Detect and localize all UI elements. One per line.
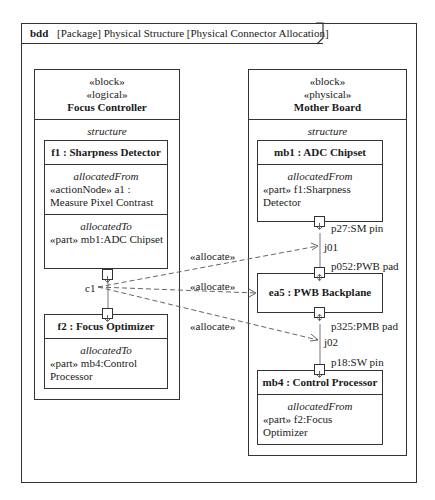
arrow-down-icon [103, 275, 112, 284]
connector-j01-label: j01 [324, 241, 338, 253]
arrow-bidirectional-icon [315, 273, 324, 282]
port-label-p325: p325:PMB pad [331, 320, 398, 332]
allocate-label-1: «allocate» [190, 250, 235, 262]
connector-j02-label: j02 [324, 336, 338, 348]
port-label-p27: p27:SM pin [331, 222, 383, 234]
port-label-p18: p18:SW pin [331, 356, 384, 368]
port-f1-out[interactable] [102, 269, 113, 280]
port-p052-pwb-pad[interactable] [314, 267, 325, 278]
connector-c1-label: c1 [85, 282, 95, 294]
port-p18-sw-pin[interactable] [314, 364, 325, 375]
port-p325-pmb-pad[interactable] [314, 307, 325, 318]
port-label-p052: p052:PWB pad [331, 260, 399, 272]
arrow-down-icon [103, 314, 112, 323]
allocate-label-2: «allocate» [190, 280, 235, 292]
port-f2-in[interactable] [102, 308, 113, 319]
allocate-label-3: «allocate» [190, 320, 235, 332]
arrow-bidirectional-icon [315, 313, 324, 322]
arrow-down-icon [315, 222, 324, 231]
arrow-down-icon [315, 370, 324, 379]
port-p27-sm-pin[interactable] [314, 216, 325, 227]
